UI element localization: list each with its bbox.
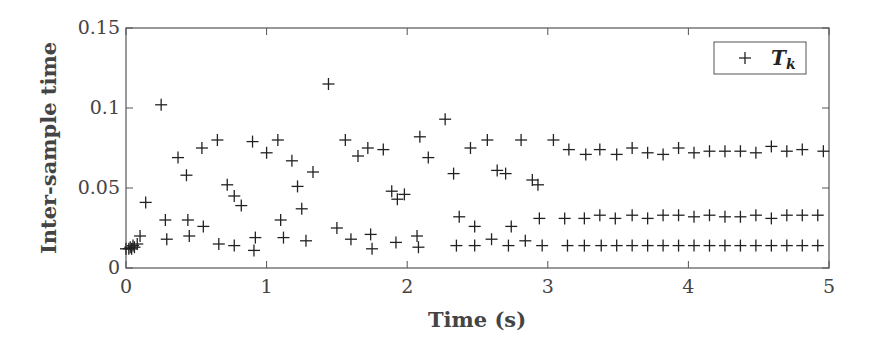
data-point-marker <box>580 148 592 160</box>
data-point-marker <box>642 240 654 252</box>
data-point-marker <box>703 145 715 157</box>
data-point-marker <box>172 152 184 164</box>
data-point-marker <box>673 142 685 154</box>
data-point-marker <box>134 230 146 242</box>
data-point-marker <box>734 211 746 223</box>
data-point-marker <box>563 144 575 156</box>
data-point-marker <box>673 240 685 252</box>
data-point-marker <box>626 240 638 252</box>
data-point-marker <box>657 240 669 252</box>
data-point-marker <box>642 212 654 224</box>
y-tick-label: 0.15 <box>78 16 120 38</box>
data-point-marker <box>453 211 465 223</box>
data-point-marker <box>500 168 512 180</box>
data-point-marker <box>594 209 606 221</box>
data-point-marker <box>469 240 481 252</box>
data-point-marker <box>486 233 498 245</box>
data-point-marker <box>559 212 571 224</box>
data-point-marker <box>781 240 793 252</box>
data-point-marker <box>464 142 476 154</box>
data-point-marker <box>307 166 319 178</box>
data-point-marker <box>292 180 304 192</box>
y-tick-label: 0.1 <box>90 96 120 118</box>
data-point-marker <box>414 131 426 143</box>
x-tick-label: 1 <box>261 275 273 297</box>
data-point-marker <box>703 240 715 252</box>
data-point-marker <box>331 222 343 234</box>
data-point-marker <box>247 136 259 148</box>
data-point-marker <box>228 190 240 202</box>
data-point-marker <box>765 240 777 252</box>
data-point-marker <box>339 134 351 146</box>
data-point-marker <box>412 241 424 253</box>
data-point-marker <box>161 233 173 245</box>
data-point-marker <box>377 144 389 156</box>
data-point-marker <box>688 147 700 159</box>
scatter-chart: 01234500.050.10.15 Time (s) Inter-sample… <box>0 0 876 353</box>
data-point-marker <box>547 134 559 146</box>
data-point-marker <box>439 113 451 125</box>
data-point-marker <box>296 203 308 215</box>
data-point-marker <box>595 240 607 252</box>
data-point-marker <box>365 228 377 240</box>
data-point-marker <box>515 134 527 146</box>
data-point-marker <box>611 240 623 252</box>
data-point-marker <box>411 230 423 242</box>
data-point-marker <box>719 240 731 252</box>
data-point-marker <box>180 169 192 181</box>
data-point-marker <box>159 214 171 226</box>
data-point-marker <box>248 244 260 256</box>
data-point-marker <box>765 212 777 224</box>
data-point-marker <box>519 235 531 247</box>
x-tick-label: 3 <box>542 275 554 297</box>
data-point-marker <box>812 209 824 221</box>
data-point-marker <box>140 196 152 208</box>
data-point-marker <box>197 220 209 232</box>
data-point-marker <box>578 212 590 224</box>
data-point-marker <box>796 144 808 156</box>
data-point-marker <box>719 145 731 157</box>
data-point-marker <box>578 240 590 252</box>
legend: Tk <box>714 42 806 74</box>
data-point-marker <box>657 209 669 221</box>
data-point-marker <box>448 168 460 180</box>
x-tick-label: 0 <box>120 275 132 297</box>
data-point-marker <box>272 134 284 146</box>
data-point-marker <box>481 134 493 146</box>
data-point-marker <box>673 209 685 221</box>
data-point-marker <box>750 240 762 252</box>
x-tick-label: 2 <box>401 275 413 297</box>
data-point-marker <box>155 99 167 111</box>
data-point-marker <box>196 142 208 154</box>
x-axis-label: Time (s) <box>428 307 526 332</box>
data-point-marker <box>491 164 503 176</box>
x-tick-label: 5 <box>823 275 835 297</box>
data-point-marker <box>345 233 357 245</box>
data-point-marker <box>536 240 548 252</box>
data-point-marker <box>362 142 374 154</box>
data-point-marker <box>450 240 462 252</box>
data-point-marker <box>390 236 402 248</box>
data-point-marker <box>228 240 240 252</box>
data-point-marker <box>734 240 746 252</box>
y-axis-label: Inter-sample time <box>36 42 61 254</box>
data-point-marker <box>300 235 312 247</box>
data-point-marker <box>235 200 247 212</box>
data-point-marker <box>688 211 700 223</box>
data-point-marker <box>642 147 654 159</box>
data-point-marker <box>750 147 762 159</box>
data-point-marker <box>611 148 623 160</box>
data-point-marker <box>609 212 621 224</box>
data-point-marker <box>469 220 481 232</box>
data-point-marker <box>626 209 638 221</box>
y-tick-label: 0.05 <box>78 176 120 198</box>
data-point-marker <box>626 142 638 154</box>
data-point-marker <box>657 148 669 160</box>
data-point-marker <box>221 179 233 191</box>
data-point-marker <box>781 209 793 221</box>
data-point-marker <box>750 209 762 221</box>
data-point-marker <box>817 145 829 157</box>
data-point-marker <box>286 155 298 167</box>
data-point-marker <box>183 230 195 242</box>
data-point-marker <box>211 134 223 146</box>
